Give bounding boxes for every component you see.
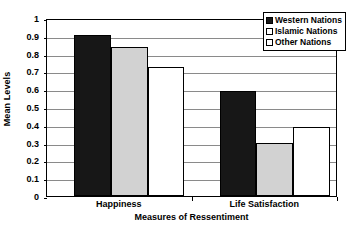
legend-item: Western Nations — [266, 15, 342, 26]
y-axis-tick-mark — [44, 56, 47, 57]
bar-islamic-nations-life-satisfaction — [256, 143, 293, 196]
y-axis-title: Mean Levels — [0, 0, 14, 197]
x-axis-category-label: Life Satisfaction — [229, 199, 299, 209]
y-axis-tick-label: 0 — [34, 192, 39, 202]
bar-western-nations-happiness — [74, 35, 111, 196]
chart-legend: Western NationsIslamic NationsOther Nati… — [263, 12, 346, 51]
y-axis-tick-mark — [44, 198, 47, 199]
y-axis-tick-mark — [44, 91, 47, 92]
legend-swatch-icon — [266, 17, 273, 24]
y-axis-tick-label: 0.3 — [26, 139, 39, 149]
y-axis-tick-mark — [44, 180, 47, 181]
bar-other-nations-life-satisfaction — [293, 127, 330, 196]
y-axis-tick-mark — [44, 73, 47, 74]
bar-other-nations-happiness — [148, 67, 185, 196]
y-axis-tick-label: 0.1 — [26, 174, 39, 184]
y-axis-tick-label: 0.7 — [26, 67, 39, 77]
y-axis-tick-label: 0.8 — [26, 50, 39, 60]
y-axis-tick-label: 0.5 — [26, 103, 39, 113]
legend-swatch-icon — [266, 28, 273, 35]
legend-item-label: Other Nations — [275, 37, 331, 48]
y-axis-tick-mark — [44, 127, 47, 128]
x-axis-tick-mark — [337, 197, 338, 201]
bar-chart: Mean Levels 00.10.20.30.40.50.60.70.80.9… — [0, 0, 348, 236]
legend-item: Islamic Nations — [266, 26, 342, 37]
legend-item-label: Western Nations — [275, 15, 342, 26]
y-axis-tick-label: 0.9 — [26, 32, 39, 42]
y-axis-tick-label: 0.2 — [26, 156, 39, 166]
bar-western-nations-life-satisfaction — [220, 91, 257, 196]
y-axis-tick-labels: 00.10.20.30.40.50.60.70.80.91 — [14, 19, 42, 197]
legend-item: Other Nations — [266, 37, 342, 48]
x-axis-title: Measures of Ressentiment — [46, 212, 337, 222]
legend-item-label: Islamic Nations — [275, 26, 337, 37]
y-axis-tick-mark — [44, 145, 47, 146]
x-axis-category-label: Happiness — [96, 199, 142, 209]
y-axis-tick-mark — [44, 162, 47, 163]
y-axis-tick-label: 0.6 — [26, 85, 39, 95]
y-axis-title-text: Mean Levels — [2, 71, 12, 126]
y-axis-tick-mark — [44, 38, 47, 39]
y-axis-tick-label: 1 — [34, 14, 39, 24]
legend-swatch-icon — [266, 39, 273, 46]
bar-islamic-nations-happiness — [111, 47, 148, 196]
y-axis-tick-label: 0.4 — [26, 121, 39, 131]
y-axis-tick-mark — [44, 109, 47, 110]
y-axis-tick-mark — [44, 20, 47, 21]
x-axis-tick-mark — [192, 197, 193, 201]
